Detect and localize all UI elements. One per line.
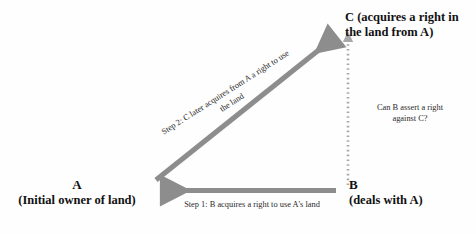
edge-label-question: Can B assert a right against C?	[358, 102, 462, 125]
node-a-description: (Initial owner of land)	[18, 193, 136, 207]
node-label-b: B (deals with A)	[349, 177, 423, 208]
edge-label-step1: Step 1: B acquires a right to use A's la…	[157, 199, 347, 210]
node-a-letter: A	[2, 177, 152, 193]
node-c-letter: C (acquires a right in	[345, 10, 459, 24]
node-label-c: C (acquires a right in the land from A)	[345, 10, 475, 40]
node-b-letter: B	[349, 177, 423, 193]
node-c-description: the land from A)	[345, 25, 433, 39]
node-label-a: A (Initial owner of land)	[2, 177, 152, 208]
arrow-question-b-to-c	[343, 32, 353, 186]
diagram-canvas: C (acquires a right in the land from A) …	[0, 0, 476, 234]
edge-label-question-line1: Can B assert a right	[358, 102, 462, 113]
node-b-description: (deals with A)	[349, 193, 423, 207]
edge-label-question-line2: against C?	[358, 113, 462, 124]
